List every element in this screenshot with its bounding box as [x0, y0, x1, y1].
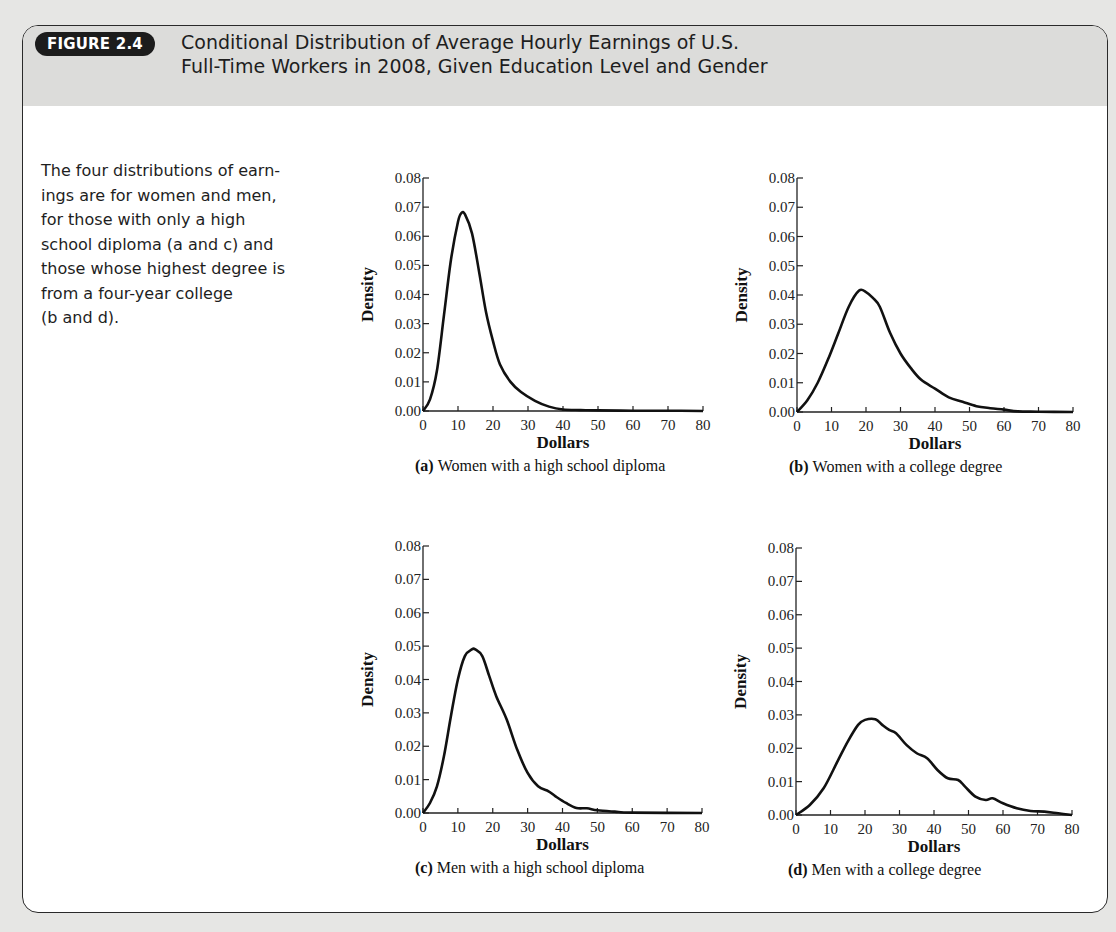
- x-tick-label: 10: [823, 821, 838, 837]
- y-tick-label: 0.01: [395, 772, 421, 788]
- y-tick-label: 0.03: [395, 705, 421, 721]
- y-tick-label: 0.08: [395, 538, 421, 554]
- x-tick-label: 0: [792, 821, 800, 837]
- x-tick-label: 70: [661, 417, 676, 433]
- density-curve: [423, 649, 702, 813]
- y-tick-label: 0.05: [395, 257, 421, 273]
- y-tick-label: 0.04: [395, 287, 422, 303]
- y-tick-label: 0.07: [395, 571, 422, 587]
- y-tick-label: 0.04: [769, 287, 796, 303]
- y-tick-label: 0.07: [768, 573, 795, 589]
- y-tick-label: 0.02: [768, 740, 794, 756]
- x-tick-label: 30: [520, 819, 535, 835]
- x-axis-label: Dollars: [909, 434, 962, 453]
- y-tick-label: 0.07: [769, 199, 796, 215]
- y-axis-label: Density: [358, 652, 377, 707]
- y-axis-label: Density: [731, 654, 750, 709]
- x-tick-label: 40: [556, 417, 571, 433]
- x-tick-label: 10: [450, 819, 465, 835]
- density-curve: [796, 719, 1072, 815]
- y-axis-label: Density: [732, 267, 751, 322]
- panel-caption: (b) Women with a college degree: [789, 458, 1002, 476]
- y-tick-label: 0.03: [768, 707, 794, 723]
- y-tick-label: 0.04: [768, 674, 795, 690]
- x-tick-label: 50: [962, 418, 977, 434]
- x-tick-label: 10: [824, 418, 839, 434]
- x-axis-label: Dollars: [908, 837, 961, 856]
- y-tick-label: 0.00: [768, 807, 794, 823]
- x-tick-label: 40: [928, 418, 943, 434]
- x-tick-label: 60: [996, 821, 1011, 837]
- x-tick-label: 0: [419, 417, 427, 433]
- y-tick-label: 0.07: [395, 199, 422, 215]
- panel-caption: (a) Women with a high school diploma: [415, 457, 665, 475]
- y-tick-label: 0.02: [395, 345, 421, 361]
- panel-caption: (d) Men with a college degree: [788, 861, 981, 879]
- y-tick-label: 0.03: [769, 316, 795, 332]
- y-tick-label: 0.01: [395, 374, 421, 390]
- x-tick-label: 80: [695, 819, 710, 835]
- x-tick-label: 50: [961, 821, 976, 837]
- x-tick-label: 80: [1065, 821, 1080, 837]
- panel-caption: (c) Men with a high school diploma: [415, 859, 644, 877]
- density-curve: [797, 290, 1073, 412]
- x-tick-label: 20: [486, 417, 501, 433]
- y-tick-label: 0.02: [769, 346, 795, 362]
- y-tick-label: 0.06: [395, 228, 422, 244]
- y-tick-label: 0.01: [768, 774, 794, 790]
- x-tick-label: 50: [591, 417, 606, 433]
- x-tick-label: 10: [451, 417, 466, 433]
- y-tick-label: 0.06: [395, 605, 422, 621]
- x-tick-label: 60: [997, 418, 1012, 434]
- x-tick-label: 70: [1031, 418, 1046, 434]
- density-curve: [423, 212, 703, 411]
- y-tick-label: 0.01: [769, 375, 795, 391]
- x-tick-label: 50: [590, 819, 605, 835]
- x-tick-label: 30: [892, 821, 907, 837]
- x-tick-label: 40: [555, 819, 570, 835]
- x-tick-label: 60: [625, 819, 640, 835]
- y-tick-label: 0.05: [769, 258, 795, 274]
- x-tick-label: 20: [485, 819, 500, 835]
- y-axis-label: Density: [358, 267, 377, 322]
- y-tick-label: 0.08: [769, 170, 795, 186]
- x-tick-label: 80: [696, 417, 711, 433]
- x-tick-label: 70: [660, 819, 675, 835]
- x-tick-label: 70: [1030, 821, 1045, 837]
- y-tick-label: 0.05: [768, 640, 794, 656]
- x-tick-label: 80: [1066, 418, 1081, 434]
- y-tick-label: 0.02: [395, 738, 421, 754]
- x-axis-label: Dollars: [537, 433, 590, 452]
- y-tick-label: 0.00: [769, 404, 795, 420]
- x-tick-label: 20: [858, 821, 873, 837]
- x-tick-label: 60: [626, 417, 641, 433]
- y-tick-label: 0.08: [768, 540, 794, 556]
- x-axis-label: Dollars: [536, 835, 589, 854]
- x-tick-label: 40: [927, 821, 942, 837]
- y-tick-label: 0.06: [769, 229, 796, 245]
- x-tick-label: 0: [793, 418, 801, 434]
- plots-canvas: 0.000.010.020.030.040.050.060.070.080102…: [0, 0, 1116, 932]
- y-tick-label: 0.00: [395, 403, 421, 419]
- y-tick-label: 0.04: [395, 672, 422, 688]
- x-tick-label: 30: [521, 417, 536, 433]
- y-tick-label: 0.00: [395, 805, 421, 821]
- x-tick-label: 0: [419, 819, 427, 835]
- y-tick-label: 0.08: [395, 170, 421, 186]
- y-tick-label: 0.03: [395, 316, 421, 332]
- x-tick-label: 20: [859, 418, 874, 434]
- y-tick-label: 0.05: [395, 638, 421, 654]
- y-tick-label: 0.06: [768, 607, 795, 623]
- x-tick-label: 30: [893, 418, 908, 434]
